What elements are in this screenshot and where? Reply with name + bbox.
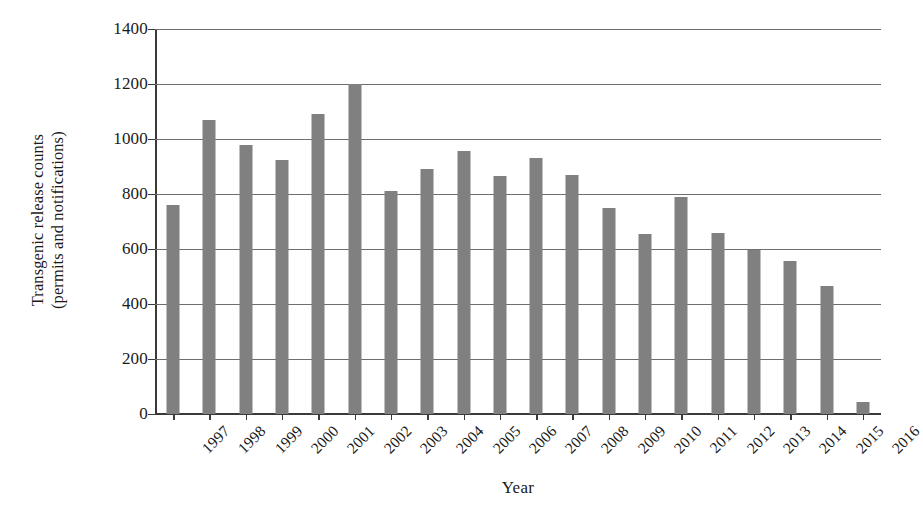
bar-slot [445,29,481,414]
x-tick-label: 2013 [779,422,814,457]
x-tick-label: 2007 [561,422,596,457]
y-axis-title: Transgenic release counts (permits and n… [18,0,78,440]
bar-series [155,29,881,414]
bar[interactable] [276,160,289,414]
x-tick-mark [500,414,501,420]
x-tick-label: 2009 [634,422,669,457]
bar[interactable] [530,158,543,414]
bar-slot [482,29,518,414]
bar[interactable] [820,286,833,414]
bar[interactable] [639,234,652,414]
x-tick-label: 1998 [235,422,270,457]
bar-slot [736,29,772,414]
y-tick-label: 1200 [86,74,148,94]
y-tick-mark [148,359,155,360]
x-tick-mark [246,414,247,420]
y-tick-mark [148,414,155,415]
y-axis-title-line-1: Transgenic release counts [28,131,48,309]
y-tick-mark [148,29,155,30]
x-tick-label: 2008 [598,422,633,457]
x-tick-mark [464,414,465,420]
x-tick-mark [536,414,537,420]
bar[interactable] [203,120,216,414]
y-tick-label: 800 [86,184,148,204]
y-tick-mark [148,139,155,140]
bar[interactable] [384,191,397,414]
bar[interactable] [784,261,797,414]
bar-slot [191,29,227,414]
x-tick-mark [645,414,646,420]
bar-slot [591,29,627,414]
bar[interactable] [602,208,615,414]
x-tick-mark [754,414,755,420]
x-tick-label: 2001 [344,422,379,457]
bar-slot [409,29,445,414]
x-tick-label: 1999 [271,422,306,457]
x-tick-mark [790,414,791,420]
y-tick-label: 1000 [86,129,148,149]
x-tick-label: 2011 [706,422,741,457]
x-tick-label: 2016 [888,422,923,457]
y-tick-label: 600 [86,239,148,259]
bar[interactable] [566,175,579,414]
x-tick-label: 1997 [198,422,233,457]
x-tick-mark [355,414,356,420]
x-tick-label: 2000 [307,422,342,457]
bar-slot [700,29,736,414]
x-tick-mark [282,414,283,420]
x-tick-mark [572,414,573,420]
x-tick-label: 2015 [852,422,887,457]
y-axis-tick-labels: 1400120010008006004002000 [82,0,148,521]
x-tick-mark [318,414,319,420]
y-tick-mark [148,84,155,85]
bar-slot [228,29,264,414]
y-tick-label: 0 [86,404,148,424]
bar-slot [155,29,191,414]
bar[interactable] [675,197,688,414]
bar[interactable] [167,205,180,414]
bar[interactable] [711,233,724,415]
x-tick-mark [827,414,828,420]
bar-slot [264,29,300,414]
x-tick-label: 2006 [525,422,560,457]
bar[interactable] [312,114,325,414]
x-tick-mark [718,414,719,420]
x-tick-label: 2014 [816,422,851,457]
x-tick-mark [681,414,682,420]
bar[interactable] [747,250,760,414]
bar-slot [845,29,881,414]
bar-slot [337,29,373,414]
plot-area [155,29,881,414]
y-tick-label: 400 [86,294,148,314]
bar[interactable] [421,169,434,414]
x-tick-label: 2010 [670,422,705,457]
x-tick-label: 2005 [489,422,524,457]
x-tick-mark [391,414,392,420]
bar-slot [808,29,844,414]
bar-slot [518,29,554,414]
x-tick-label: 2004 [453,422,488,457]
bar-slot [373,29,409,414]
bar[interactable] [856,402,869,414]
y-tick-label: 1400 [86,19,148,39]
x-tick-label: 2003 [416,422,451,457]
y-tick-mark [148,194,155,195]
bar-slot [627,29,663,414]
bar[interactable] [348,84,361,414]
x-tick-mark [427,414,428,420]
y-tick-mark [148,249,155,250]
bar[interactable] [493,176,506,414]
x-tick-mark [173,414,174,420]
x-tick-label: 2002 [380,422,415,457]
bar-slot [663,29,699,414]
y-tick-mark [148,304,155,305]
x-tick-mark [609,414,610,420]
y-axis-title-line-2: (permits and notifications) [48,131,68,309]
bar-slot [300,29,336,414]
bar[interactable] [457,151,470,414]
x-tick-mark [863,414,864,420]
bar[interactable] [239,145,252,415]
x-tick-label: 2012 [743,422,778,457]
bar-slot [554,29,590,414]
